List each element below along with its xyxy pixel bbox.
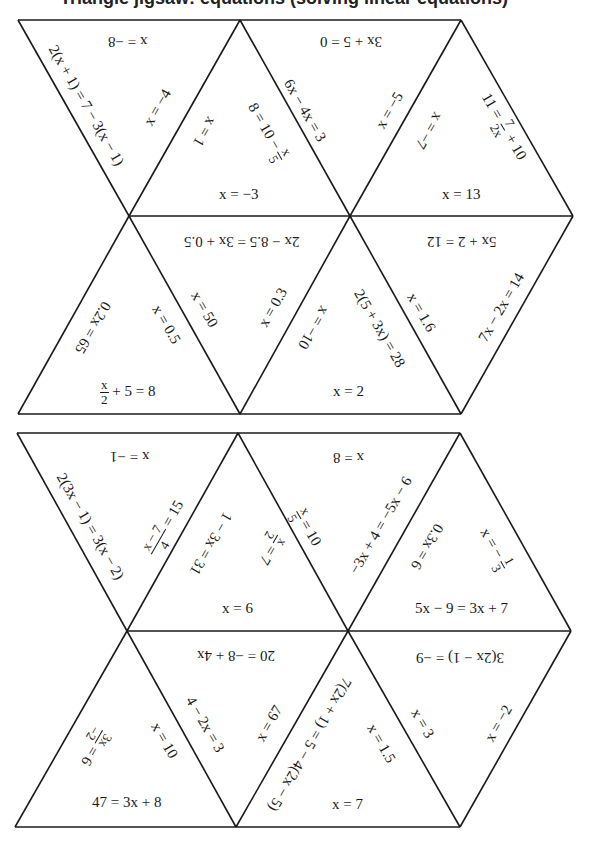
fraction: x2 bbox=[100, 378, 109, 406]
p1-t3-top-edge: 3x + 5 = 0 bbox=[320, 34, 382, 49]
p2-t1-right-text: = 15 bbox=[159, 497, 186, 529]
p2-t7-bottom-edge: x = 7 bbox=[332, 797, 363, 812]
p1-t5-bottom-edge: x2 + 5 = 8 bbox=[100, 378, 155, 406]
p2-t3-top-edge: x = 8 bbox=[333, 450, 364, 465]
p1-t7-bottom-edge: x = 2 bbox=[333, 384, 364, 399]
p1-t4-bottom-edge: x = 13 bbox=[442, 187, 480, 202]
p2-t5-bottom-edge: 47 = 3x + 8 bbox=[92, 795, 161, 810]
p2-t4-bottom-edge: 5x − 9 = 3x + 7 bbox=[415, 601, 508, 616]
p2-t8-top-edge: 3(2x − 1) = −9 bbox=[416, 650, 504, 665]
p2-t6-top-edge: 20 = −8 + 4x bbox=[197, 648, 275, 663]
p1-t2-bottom-edge: x = −3 bbox=[219, 187, 258, 202]
p1-t8-top-edge: 5x + 2 = 12 bbox=[427, 234, 496, 249]
p1-t1-top-edge: x = −8 bbox=[108, 34, 147, 49]
p1-t5-bottom-text: + 5 = 8 bbox=[112, 383, 155, 399]
p1-t6-top-edge: 2x − 8.5 = 3x + 0.5 bbox=[184, 234, 299, 249]
p2-t2-bottom-edge: x = 6 bbox=[222, 601, 253, 616]
p2-t1-top-edge: x = −1 bbox=[110, 449, 149, 464]
